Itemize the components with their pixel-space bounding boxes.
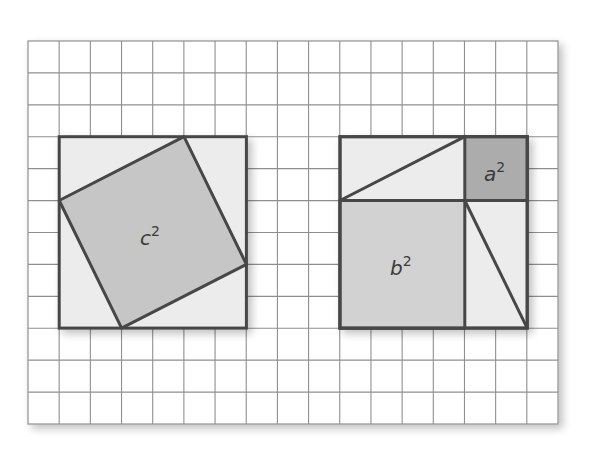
right-square-group: a2 b2 (340, 137, 527, 328)
pythagorean-diagram: c2 a2 b2 (0, 0, 589, 462)
left-square-group: c2 (59, 137, 246, 328)
